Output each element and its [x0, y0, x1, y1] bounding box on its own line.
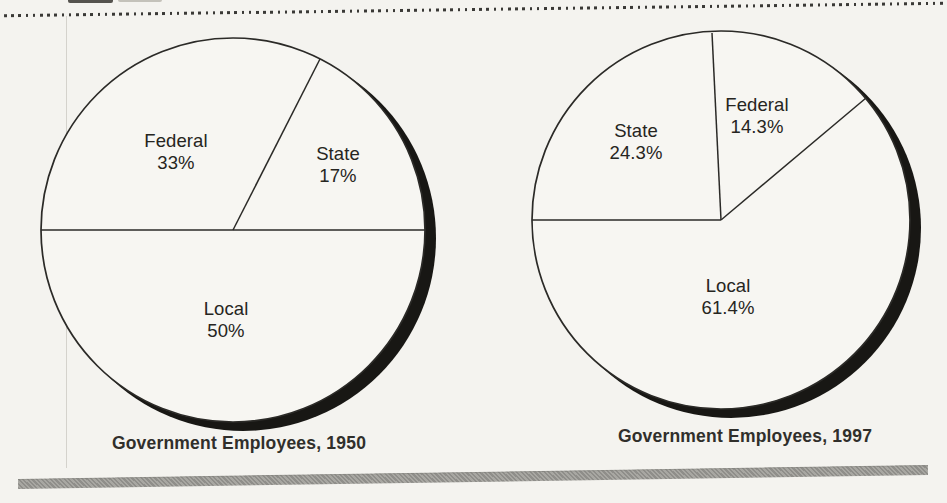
slice-name: State [610, 120, 663, 142]
pie-figure-1997: State 24.3% Federal 14.3% Local 61.4% Go… [0, 0, 947, 503]
slice-value: 61.4% [702, 297, 755, 319]
slice-value: 14.3% [725, 116, 788, 138]
pie-chart-1997 [510, 14, 947, 444]
slice-name: Federal [725, 94, 788, 116]
slice-label-local-1997: Local 61.4% [702, 275, 755, 319]
slice-value: 24.3% [610, 142, 663, 164]
slice-label-state-1997: State 24.3% [610, 120, 663, 164]
scanned-textbook-page: Federal 33% State 17% Local 50% Governme… [0, 0, 947, 503]
slice-label-federal-1997: Federal 14.3% [725, 94, 788, 138]
slice-name: Local [702, 275, 755, 297]
chart-caption-1997: Government Employees, 1997 [565, 426, 925, 447]
